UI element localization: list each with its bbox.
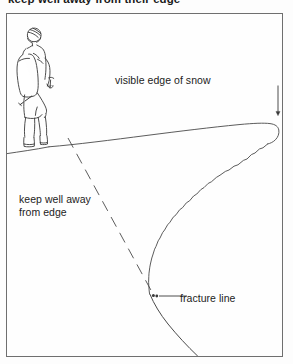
hiker-snow-ledge <box>7 147 49 154</box>
label-keep-well-away-from-edge: keep well awayfrom edge <box>19 193 91 218</box>
hiker-figure <box>17 28 54 147</box>
cornice-top-edge <box>49 123 279 147</box>
label-keep-away-line1: keep well away <box>19 193 91 205</box>
hiker-backpack <box>17 53 43 97</box>
visible-edge-leader-arrow <box>276 86 280 116</box>
label-fracture-line: fracture line <box>180 292 236 305</box>
figure-frame: visible edge of snow keep well awayfrom … <box>6 13 283 357</box>
figure-page: keep well away from their edge <box>0 0 293 364</box>
label-visible-edge-of-snow: visible edge of snow <box>115 74 211 87</box>
cornice-underside <box>149 144 268 294</box>
caption-heading: keep well away from their edge <box>8 0 288 5</box>
hiker-legs <box>24 117 46 139</box>
cornice-illustration <box>7 14 282 356</box>
hiker-boots <box>24 136 48 147</box>
label-keep-away-line2: from edge <box>19 206 67 218</box>
hiker-helmet-icon <box>27 28 41 46</box>
fracture-point-dot <box>152 294 155 297</box>
